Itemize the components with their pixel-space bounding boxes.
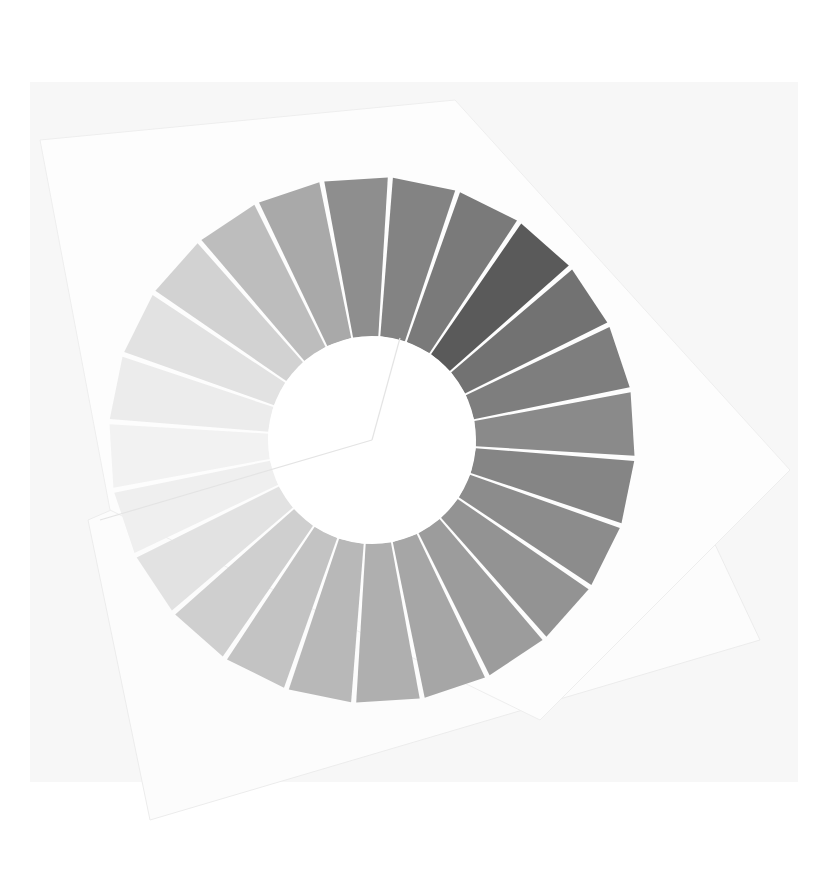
- grayscale-wheel-photo: [0, 0, 838, 870]
